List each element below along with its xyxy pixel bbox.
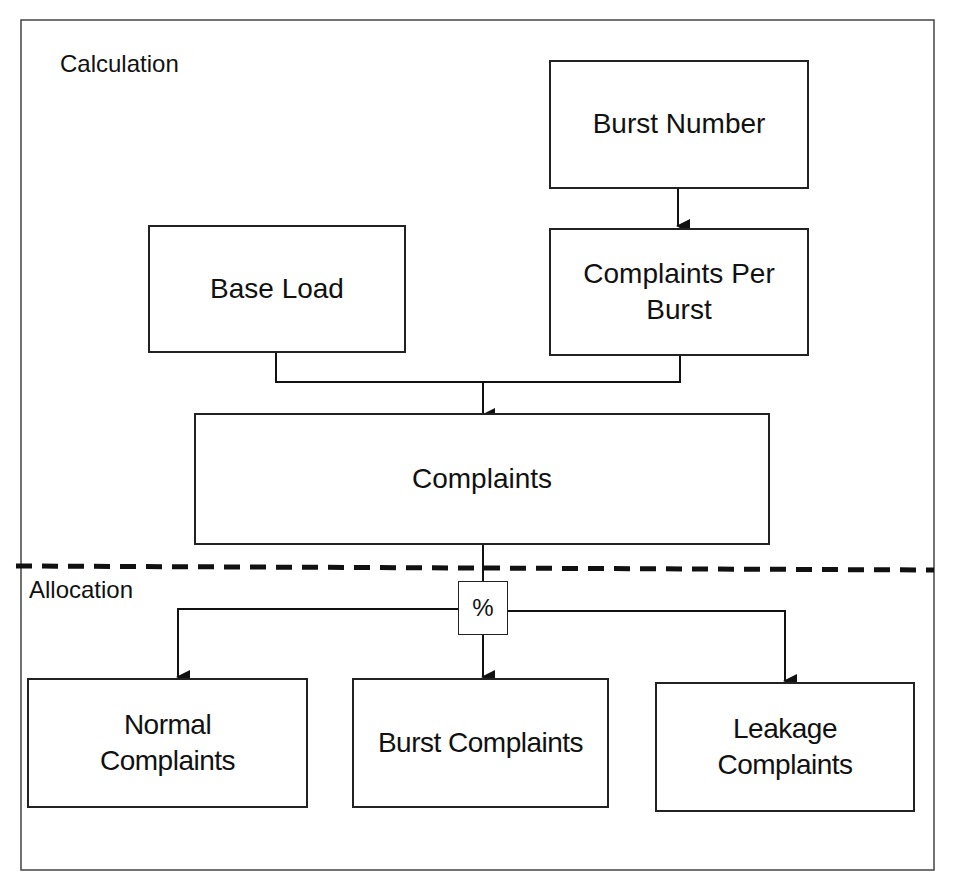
edge-percent-right <box>507 611 785 681</box>
node-burst-complaints: Burst Complaints <box>352 678 609 808</box>
node-percent: % <box>458 581 508 635</box>
node-complaints-per-burst-label: Complaints Per Burst <box>583 256 774 329</box>
section-divider <box>16 566 934 570</box>
node-leakage-complaints: Leakage Complaints <box>655 682 915 812</box>
node-burst-number: Burst Number <box>549 60 809 189</box>
node-complaints: Complaints <box>194 413 770 545</box>
section-label-allocation: Allocation <box>29 576 133 604</box>
node-base-load-label: Base Load <box>210 271 344 307</box>
node-complaints-label: Complaints <box>412 461 552 497</box>
node-leakage-complaints-label: Leakage Complaints <box>717 711 852 784</box>
edge-percent-left <box>178 609 458 677</box>
node-base-load: Base Load <box>148 225 406 353</box>
node-burst-complaints-label: Burst Complaints <box>378 725 583 761</box>
node-percent-label: % <box>472 592 493 623</box>
node-burst-number-label: Burst Number <box>593 106 766 142</box>
flow-diagram: Calculation Allocation Burst Number Base… <box>0 0 958 884</box>
node-complaints-per-burst: Complaints Per Burst <box>549 228 809 356</box>
edge-merge-to-complaints <box>276 352 680 382</box>
node-normal-complaints: Normal Complaints <box>27 678 308 808</box>
section-label-calculation: Calculation <box>60 50 179 78</box>
node-normal-complaints-label: Normal Complaints <box>100 707 235 780</box>
